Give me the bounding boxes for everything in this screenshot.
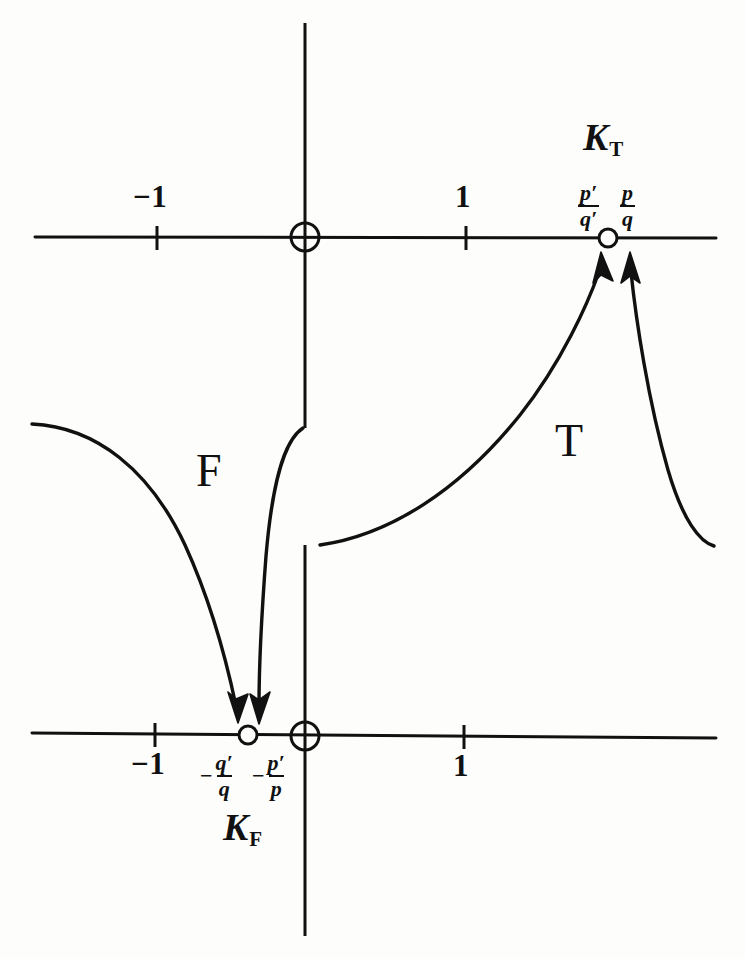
- bottom-fraction-neg-p-prime-p: − p′ p: [252, 752, 287, 801]
- fraction-numerator: p: [620, 182, 635, 205]
- k-t-letter: K: [583, 116, 608, 158]
- top-marked-point-circle: [599, 229, 617, 247]
- k-f-letter: K: [223, 806, 248, 848]
- curve-f-inner: [259, 428, 303, 706]
- fraction-sign: −: [252, 765, 265, 787]
- fraction-denominator: p: [269, 775, 284, 800]
- k-f-label: KF: [223, 808, 262, 850]
- bottom-label-negative-one: −1: [131, 748, 165, 779]
- k-t-subscript: T: [609, 137, 623, 161]
- fraction-denominator: q: [217, 775, 232, 800]
- figure-drawing: [0, 0, 745, 959]
- bottom-label-one: 1: [453, 750, 469, 781]
- fraction-denominator: q: [620, 205, 635, 230]
- figure-canvas: KT −1 1 p′ q′ p q F T −1 1 − q′ q: [0, 0, 745, 959]
- fraction-p-prime-over-q-prime: p′ q′: [578, 182, 599, 231]
- k-f-subscript: F: [249, 827, 262, 851]
- bottom-fraction-neg-q-prime-q: − q′ q: [200, 752, 235, 801]
- fraction-q-prime-over-q: q′ q: [214, 752, 235, 801]
- top-label-one: 1: [455, 181, 471, 212]
- top-fraction-p-prime-q-prime: p′ q′: [578, 182, 599, 231]
- top-axis-group: [35, 223, 716, 251]
- curve-t-outer: [320, 272, 599, 545]
- arrowhead-f-outer: [228, 692, 248, 723]
- fraction-denominator: q′: [578, 205, 599, 230]
- region-label-t: T: [555, 418, 583, 464]
- top-fraction-p-q: p q: [620, 182, 635, 231]
- arrowhead-t-outer: [593, 252, 613, 283]
- fraction-p-prime-over-p: p′ p: [266, 752, 287, 801]
- fraction-p-over-q: p q: [620, 182, 635, 231]
- fraction-sign: −: [200, 765, 213, 787]
- fraction-numerator: p′: [578, 182, 599, 205]
- fraction-numerator: q′: [214, 752, 235, 775]
- k-t-label: KT: [583, 118, 623, 160]
- region-label-f: F: [196, 448, 222, 494]
- curve-t-inner: [631, 272, 714, 546]
- fraction-numerator: p′: [266, 752, 287, 775]
- top-label-negative-one: −1: [133, 181, 167, 212]
- bottom-marked-point-circle: [239, 726, 257, 744]
- bottom-horizontal-axis: [32, 733, 716, 738]
